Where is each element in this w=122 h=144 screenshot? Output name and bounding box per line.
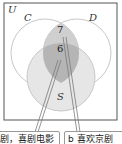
set-label-s: S	[57, 91, 64, 102]
region-value-cd: 7	[57, 24, 63, 35]
set-label-c: C	[24, 12, 32, 23]
universe-label: U	[8, 4, 16, 15]
set-label-d: D	[89, 12, 97, 23]
region-value-cds: 6	[57, 43, 63, 54]
callout-right: b 喜欢京剧	[64, 131, 122, 144]
venn-diagram	[0, 0, 122, 144]
callout-left: 剧，喜剧电影	[0, 131, 60, 144]
